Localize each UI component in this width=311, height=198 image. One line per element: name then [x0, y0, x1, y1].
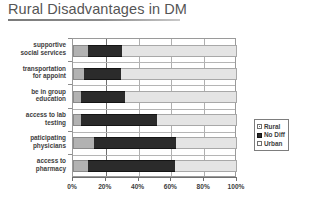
bar-segment-no-diff[interactable]: [88, 160, 175, 172]
x-axis-tick-label: 40%: [123, 183, 153, 190]
stacked-bar[interactable]: [73, 114, 237, 126]
y-axis-label-line: for appoint: [0, 72, 66, 80]
y-axis-label: access topharmacy: [0, 157, 66, 172]
y-axis-label: access to labtesting: [0, 111, 66, 126]
legend-item-urban[interactable]: Urban: [257, 140, 285, 148]
y-axis-label-line: social services: [0, 49, 66, 57]
stacked-bar[interactable]: [73, 137, 237, 149]
y-axis-category-labels: supportivesocial servicestransportationf…: [0, 38, 70, 177]
x-axis-tick: [203, 177, 204, 181]
bar-segment-no-diff[interactable]: [84, 68, 120, 80]
slide-canvas: Rural Disadvantages in DM supportivesoci…: [0, 0, 311, 198]
y-axis-label-line: be in group: [0, 88, 66, 96]
bar-row: [73, 155, 235, 178]
y-axis-label-line: pharmacy: [0, 165, 66, 173]
x-axis-line: [72, 177, 236, 178]
stacked-bar[interactable]: [73, 160, 237, 172]
bar-segment-rural[interactable]: [73, 114, 81, 126]
bar-segment-urban[interactable]: [121, 68, 237, 80]
bar-segment-rural[interactable]: [73, 45, 88, 57]
bar-row: [73, 109, 235, 132]
y-axis-label-line: education: [0, 95, 66, 103]
x-axis-tick: [72, 177, 73, 181]
bar-segment-urban[interactable]: [176, 137, 237, 149]
y-axis-label: paticipatingphysicians: [0, 134, 66, 149]
stacked-bar[interactable]: [73, 68, 237, 80]
chart-legend[interactable]: RuralNo DiffUrban: [254, 119, 289, 151]
x-axis-tick-label: 20%: [90, 183, 120, 190]
y-axis-label-line: paticipating: [0, 134, 66, 142]
bar-segment-no-diff[interactable]: [81, 114, 156, 126]
x-axis-tick: [170, 177, 171, 181]
legend-swatch-icon: [257, 124, 262, 129]
page-title: Rural Disadvantages in DM: [8, 1, 303, 17]
x-axis-tick-label: 0%: [57, 183, 87, 190]
x-axis: 0%20%40%60%80%100%: [72, 177, 236, 197]
bar-segment-no-diff[interactable]: [81, 91, 125, 103]
y-axis-label-line: transportation: [0, 65, 66, 73]
y-axis-label-line: access to lab: [0, 111, 66, 119]
y-axis-label: be in groupeducation: [0, 88, 66, 103]
stacked-bar[interactable]: [73, 91, 237, 103]
bar-segment-urban[interactable]: [157, 114, 237, 126]
bar-row: [73, 39, 235, 62]
y-axis-label-line: physicians: [0, 142, 66, 150]
legend-label: No Diff: [264, 131, 285, 139]
bar-segment-rural[interactable]: [73, 160, 88, 172]
y-axis-label-line: supportive: [0, 41, 66, 49]
bar-segment-rural[interactable]: [73, 91, 81, 103]
bar-segment-no-diff[interactable]: [94, 137, 176, 149]
bar-segment-no-diff[interactable]: [88, 45, 122, 57]
x-axis-tick-label: 100%: [221, 183, 251, 190]
y-axis-label-line: testing: [0, 119, 66, 127]
legend-label: Urban: [264, 140, 282, 148]
x-axis-tick: [138, 177, 139, 181]
x-axis-tick: [236, 177, 237, 181]
bar-segment-urban[interactable]: [122, 45, 237, 57]
legend-item-no-diff[interactable]: No Diff: [257, 131, 285, 139]
bar-segment-urban[interactable]: [125, 91, 237, 103]
bar-segment-rural[interactable]: [73, 137, 94, 149]
x-axis-tick-label: 80%: [188, 183, 218, 190]
stacked-bar[interactable]: [73, 45, 237, 57]
legend-swatch-icon: [257, 133, 262, 138]
y-axis-label-line: access to: [0, 157, 66, 165]
x-axis-tick: [105, 177, 106, 181]
bar-segment-rural[interactable]: [73, 68, 84, 80]
bar-row: [73, 85, 235, 108]
bar-row: [73, 132, 235, 155]
title-block: Rural Disadvantages in DM: [8, 1, 303, 21]
x-axis-tick-label: 60%: [155, 183, 185, 190]
title-underline-rule: [8, 19, 180, 21]
y-axis-label: transportationfor appoint: [0, 65, 66, 80]
bar-row: [73, 62, 235, 85]
bar-rows: [73, 39, 235, 176]
plot-area: [72, 38, 236, 177]
chart-area: supportivesocial servicestransportationf…: [0, 30, 311, 198]
bar-segment-urban[interactable]: [175, 160, 237, 172]
legend-item-rural[interactable]: Rural: [257, 123, 285, 131]
legend-swatch-icon: [257, 141, 262, 146]
y-axis-label: supportivesocial services: [0, 41, 66, 56]
legend-label: Rural: [264, 123, 280, 131]
